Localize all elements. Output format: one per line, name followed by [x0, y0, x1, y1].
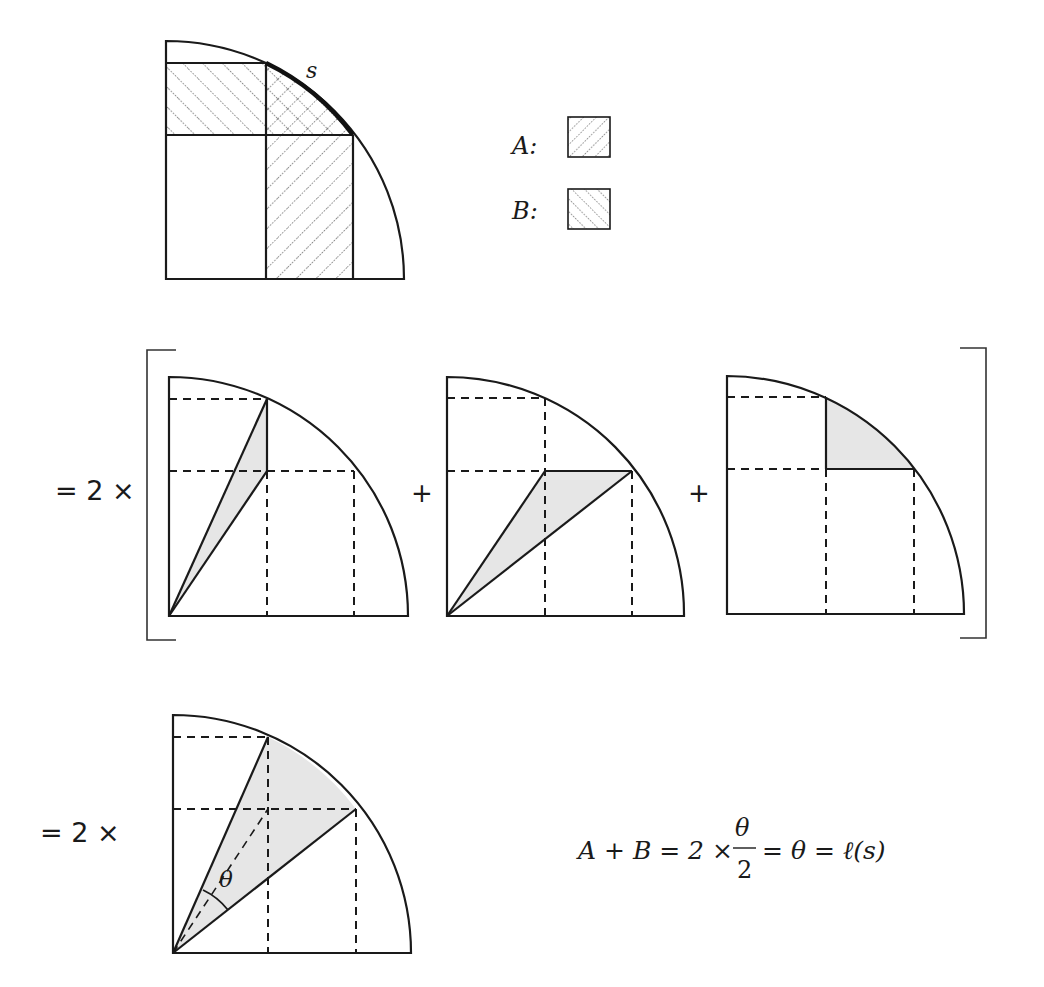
angle-label-theta: θ — [219, 866, 233, 892]
equation: A + B = 2 × θ 2 = θ = ℓ(s) — [576, 814, 886, 884]
top-quarter-circle-diagram: s — [166, 41, 404, 279]
row2-prefix: = 2 × — [55, 475, 135, 506]
legend-label-a: A: — [510, 132, 537, 160]
legend-swatch-b — [568, 189, 610, 229]
equation-frac-den: 2 — [737, 856, 752, 884]
left-bracket — [147, 350, 176, 640]
legend-label-b: B: — [511, 197, 538, 225]
equation-rhs: = θ = ℓ(s) — [762, 836, 886, 865]
legend-swatch-a — [568, 117, 610, 157]
row2-panel-2 — [447, 377, 684, 616]
equation-lhs: A + B = 2 × — [576, 836, 733, 865]
equation-frac-num: θ — [735, 814, 750, 842]
shaded-sector — [173, 737, 356, 953]
arc-label-s: s — [306, 58, 317, 83]
legend: A: B: — [510, 117, 610, 229]
plus-sign-1: + — [411, 478, 433, 508]
row2-panel-3 — [727, 376, 964, 614]
shaded-curved-corner — [826, 397, 914, 469]
plus-sign-2: + — [688, 478, 710, 508]
row3-prefix: = 2 × — [40, 817, 120, 848]
row2-panel-1 — [169, 377, 408, 616]
figure-canvas: s A: B: = 2 × + — [0, 0, 1044, 987]
row3-sector-diagram: θ — [173, 715, 411, 953]
